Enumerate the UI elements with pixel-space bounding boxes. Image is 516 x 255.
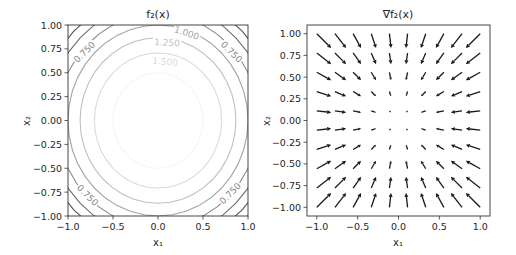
- y-axis-label: x₂: [21, 116, 32, 126]
- gradient-arrow: [451, 161, 462, 169]
- x-tick-label: 1.0: [240, 221, 255, 232]
- gradient-arrow: [466, 110, 480, 114]
- gradient-arrow: [353, 92, 361, 97]
- gradient-arrow: [317, 110, 331, 114]
- gradient-arrow: [405, 161, 408, 169]
- gradient-arrow: [371, 128, 376, 130]
- gradient-arrows: [317, 34, 480, 208]
- x-tick-label: −0.5: [101, 221, 124, 232]
- gradient-arrow: [389, 92, 391, 97]
- gradient-arrow: [451, 53, 462, 64]
- gradient-arrow: [335, 110, 346, 114]
- y-tick-label: 0.00: [280, 115, 301, 126]
- contour-line: [68, 25, 248, 216]
- y-tick-label: 0.25: [41, 91, 62, 102]
- contour-plot: f₂(x) 0.7500.7500.7500.7501.0001.2501.50…: [21, 0, 285, 255]
- gradient-arrow: [371, 72, 376, 80]
- gradient-arrow: [353, 161, 361, 169]
- gradient-arrow: [389, 177, 393, 188]
- contour-plot-frame: [68, 25, 248, 216]
- y-axis-ticks: −1.00−0.75−0.50−0.250.000.250.500.751.00: [33, 20, 68, 222]
- gradient-arrow: [371, 53, 376, 64]
- y-tick-label: 0.50: [41, 67, 62, 78]
- gradient-arrow: [404, 34, 408, 48]
- gradient-arrow: [466, 127, 480, 131]
- y-axis-label: x₂: [261, 116, 272, 126]
- gradient-arrow: [317, 144, 331, 149]
- gradient-arrow: [451, 92, 462, 97]
- gradient-arrow: [436, 193, 444, 207]
- y-tick-label: −0.25: [33, 139, 62, 150]
- gradient-arrow: [451, 34, 462, 48]
- gradient-arrow: [466, 34, 480, 48]
- contour-label: 1.500: [152, 56, 179, 68]
- gradient-arrow: [317, 72, 331, 80]
- x-tick-label: 0.5: [432, 221, 447, 232]
- y-tick-label: 0.25: [280, 93, 301, 104]
- gradient-arrow: [317, 53, 331, 64]
- gradient-arrow: [421, 72, 426, 80]
- contour-line: [113, 73, 203, 169]
- gradient-arrow: [404, 193, 408, 207]
- gradient-arrow: [371, 161, 376, 169]
- gradient-arrow: [353, 72, 361, 80]
- gradient-arrow: [335, 144, 346, 149]
- gradient-arrow: [466, 72, 480, 80]
- y-tick-label: −0.25: [272, 137, 301, 148]
- y-tick-label: 1.00: [280, 28, 301, 39]
- contour-plot-title: f₂(x): [146, 8, 169, 21]
- gradient-arrow: [335, 53, 346, 64]
- gradient-arrow: [421, 92, 426, 97]
- quiver-plot-frame: [307, 25, 490, 216]
- x-tick-label: 0.0: [391, 221, 406, 232]
- x-axis-label: x₁: [393, 237, 403, 248]
- gradient-arrow: [421, 177, 426, 188]
- gradient-arrow: [389, 161, 392, 169]
- contour-label: 0.750: [218, 181, 243, 206]
- y-tick-label: −0.75: [33, 187, 62, 198]
- gradient-arrow: [335, 161, 346, 169]
- gradient-arrow: [317, 177, 331, 188]
- gradient-arrow: [353, 145, 361, 150]
- y-tick-label: −0.50: [272, 158, 301, 169]
- x-tick-label: −1.0: [56, 221, 79, 232]
- gradient-arrow: [335, 177, 346, 188]
- gradient-arrow: [421, 53, 426, 64]
- quiver-plot: ∇f₂(x) −1.0−0.50.00.51.0 −1.00−0.75−0.50…: [261, 8, 490, 248]
- x-tick-label: 1.0: [473, 221, 488, 232]
- gradient-arrow: [420, 34, 425, 48]
- gradient-arrow: [466, 144, 480, 149]
- gradient-arrow: [335, 34, 346, 48]
- y-tick-label: −0.75: [272, 180, 301, 191]
- gradient-arrow: [436, 128, 444, 131]
- gradient-arrow: [421, 161, 426, 169]
- gradient-arrow: [389, 53, 393, 64]
- gradient-arrow: [436, 53, 444, 64]
- figure: f₂(x) 0.7500.7500.7500.7501.0001.2501.50…: [0, 0, 516, 255]
- gradient-arrow: [353, 128, 361, 131]
- gradient-arrow: [353, 193, 361, 207]
- gradient-arrow: [406, 92, 408, 97]
- gradient-arrow: [335, 72, 346, 80]
- gradient-arrow: [317, 193, 331, 207]
- y-axis-ticks: −1.00−0.75−0.50−0.250.000.250.500.751.00: [272, 28, 307, 213]
- contour-label: 1.250: [154, 37, 181, 48]
- gradient-arrow: [436, 110, 444, 113]
- gradient-arrow: [389, 145, 391, 150]
- y-tick-label: 0.50: [280, 72, 301, 83]
- gradient-arrow: [436, 177, 444, 188]
- gradient-arrow: [436, 92, 444, 97]
- gradient-arrow: [317, 92, 331, 97]
- gradient-arrow: [389, 34, 393, 48]
- x-tick-label: −0.5: [346, 221, 369, 232]
- gradient-arrow: [466, 161, 480, 169]
- gradient-arrow: [335, 127, 346, 131]
- gradient-arrow: [421, 111, 426, 113]
- gradient-arrow: [466, 177, 480, 188]
- gradient-arrow: [317, 34, 331, 48]
- gradient-arrow: [317, 127, 331, 131]
- x-tick-label: −1.0: [305, 221, 328, 232]
- gradient-arrow: [451, 72, 462, 80]
- x-axis-ticks: −1.0−0.50.00.51.0: [305, 216, 487, 232]
- gradient-arrow: [389, 129, 391, 131]
